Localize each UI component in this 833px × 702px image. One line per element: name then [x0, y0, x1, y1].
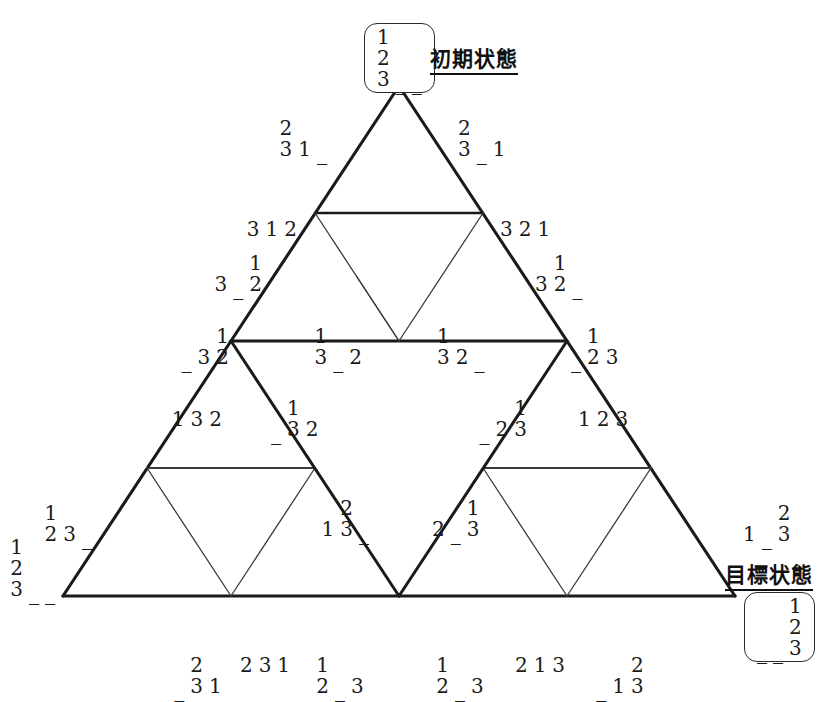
peg-a: _: [171, 676, 187, 697]
state-label: 3_12: [212, 253, 265, 295]
state-label: 123: [575, 409, 631, 430]
peg-c: 1: [274, 655, 293, 676]
peg-a: 23: [455, 118, 474, 160]
peg-a: 3: [532, 274, 551, 295]
peg-b: _: [448, 519, 464, 540]
initial-state-box: 1 2 3 _ _: [364, 23, 435, 93]
goal-state-box: _ _ 1 2 3: [744, 592, 815, 662]
peg-a: 12: [433, 655, 452, 697]
peg-b: _: [452, 676, 468, 697]
right-subtriangle-inverted: [483, 468, 651, 596]
state-label: 13_2: [312, 326, 365, 368]
peg-a: 2: [237, 655, 256, 676]
peg-b: 1: [609, 676, 628, 697]
peg-a: 3: [212, 274, 231, 295]
peg-c: 2: [346, 347, 365, 368]
peg-b: 1: [263, 219, 282, 240]
peg-c: 3: [549, 655, 568, 676]
peg-c: 23: [628, 655, 647, 697]
peg-c: 12: [246, 253, 265, 295]
peg-b: 12: [584, 326, 603, 368]
state-label: 12_3: [433, 655, 486, 697]
peg-c: 1: [490, 139, 509, 160]
state-label: 231_: [277, 118, 330, 160]
peg-c: 13: [464, 498, 483, 540]
peg-c: 2: [303, 419, 322, 440]
peg-a: 2: [429, 519, 448, 540]
state-label: 1_23: [740, 503, 793, 545]
state-label: 23_1: [455, 118, 508, 160]
state-label: 312: [244, 219, 300, 240]
peg-c: 2: [281, 219, 300, 240]
peg-a: 3: [244, 219, 263, 240]
initial-state-caption: 初期状態: [430, 42, 518, 75]
state-label: 123_: [319, 498, 372, 540]
state-label: _123: [593, 655, 646, 697]
peg-c: _: [356, 519, 372, 540]
state-label: 231: [237, 655, 293, 676]
peg-c: _: [569, 274, 585, 295]
peg-b: 12: [551, 253, 570, 295]
peg-a: 12: [313, 655, 332, 697]
peg-b: 2: [453, 347, 472, 368]
peg-a: _: [179, 347, 195, 368]
peg-c: 3: [603, 347, 622, 368]
peg-c: 2: [206, 409, 225, 430]
peg-b: 3: [60, 524, 79, 545]
state-label: 2_13: [429, 498, 482, 540]
peg-a: 23: [277, 118, 296, 160]
peg-c: 13: [511, 398, 530, 440]
state-label: 132_: [434, 326, 487, 368]
peg-b: 1: [295, 139, 314, 160]
state-label: 123__: [7, 537, 58, 600]
initial-state-value: 1 2 3 _ _: [374, 27, 425, 90]
peg-a: 1 2 3: [374, 27, 393, 90]
peg-c: _: [314, 139, 330, 160]
peg-b: 3: [195, 347, 214, 368]
peg-b: 3: [188, 409, 207, 430]
peg-c: 23: [775, 503, 794, 545]
state-label: 132: [169, 409, 225, 430]
state-label: _231: [171, 655, 224, 697]
peg-c: 1: [534, 219, 553, 240]
peg-a: _: [477, 419, 493, 440]
peg-b: 13: [284, 398, 303, 440]
peg-c: 1 2 3: [786, 596, 805, 659]
peg-b: _: [770, 638, 786, 659]
peg-c: _: [409, 69, 425, 90]
peg-b: 2: [594, 409, 613, 430]
peg-a: _: [268, 419, 284, 440]
state-label: _312: [179, 326, 232, 368]
peg-b: _: [330, 347, 346, 368]
peg-a: 1: [740, 524, 759, 545]
peg-a: 3: [497, 219, 516, 240]
goal-state-caption: 目標状態: [725, 558, 813, 591]
peg-c: 1: [206, 676, 225, 697]
left-subtriangle-inverted: [147, 468, 315, 596]
peg-a: 123: [7, 537, 26, 600]
top-subtriangle-inverted: [315, 213, 483, 341]
state-label: _213: [477, 398, 530, 440]
peg-b: _: [393, 69, 409, 90]
peg-b: _: [759, 524, 775, 545]
peg-b: 23: [187, 655, 206, 697]
peg-a: 1: [169, 409, 188, 430]
peg-a: 13: [312, 326, 331, 368]
peg-b: _: [230, 274, 246, 295]
peg-c: _: [471, 347, 487, 368]
peg-c: _: [79, 524, 95, 545]
peg-b: 23: [337, 498, 356, 540]
state-label: _123: [568, 326, 621, 368]
peg-c: 3: [348, 676, 367, 697]
peg-c: _: [42, 579, 58, 600]
peg-a: 2: [512, 655, 531, 676]
peg-b: 2: [493, 419, 512, 440]
state-label: 312_: [532, 253, 585, 295]
peg-a: 13: [434, 326, 453, 368]
peg-b: 2: [516, 219, 535, 240]
state-label: 321: [497, 219, 553, 240]
state-label: 12_3: [313, 655, 366, 697]
peg-b: 1: [531, 655, 550, 676]
